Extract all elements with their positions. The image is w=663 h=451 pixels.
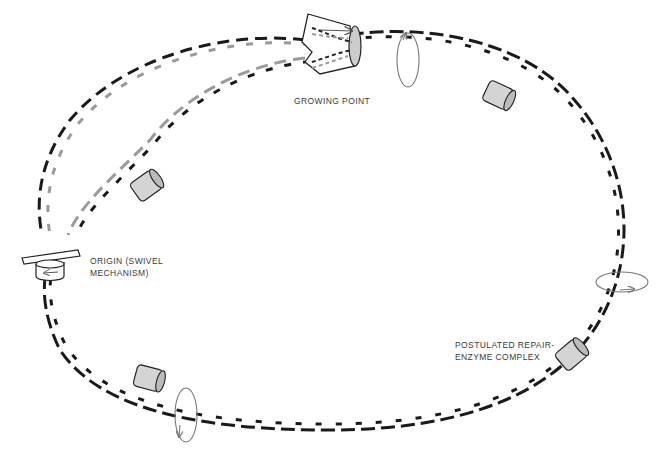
repair-enzyme-label-line1: POSTULATED REPAIR- (455, 340, 554, 351)
replicated-outer-arm (39, 38, 305, 235)
origin-label-line2: MECHANISM) (90, 268, 149, 279)
growing-point-fork (302, 14, 361, 74)
rotation-indicator-bottom (175, 388, 197, 442)
parental-dna-loop (44, 32, 624, 430)
enzyme-complex-lower-left (133, 364, 168, 393)
rotation-indicator-top (397, 33, 419, 87)
dna-replication-diagram (0, 0, 663, 451)
replicated-inner-arm (68, 58, 305, 235)
rotation-indicator-right (596, 272, 648, 292)
enzyme-complex-upper-left (129, 167, 166, 202)
growing-point-label: GROWING POINT (294, 96, 370, 107)
origin-swivel-mechanism (22, 250, 80, 281)
repair-enzyme-label-line2: ENZYME COMPLEX (455, 352, 540, 363)
enzyme-complex-upper-right (482, 80, 518, 113)
origin-label-line1: ORIGIN (SWIVEL (90, 256, 163, 267)
